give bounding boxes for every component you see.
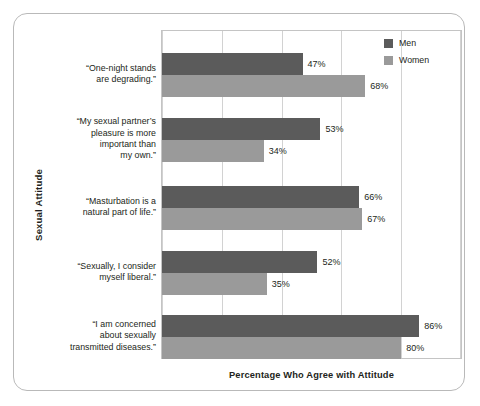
category-label-line: “My sexual partner’s (44, 116, 156, 127)
legend-label: Women (399, 55, 429, 65)
category-label-line: important than (44, 139, 156, 150)
bar-value-label: 66% (364, 186, 382, 208)
bar-value-label: 47% (308, 53, 326, 75)
category-label-line: natural part of life.” (44, 207, 156, 218)
category-label-line: myself liberal.” (44, 272, 156, 283)
category-label-3: “Masturbation is anatural part of life.” (44, 196, 156, 219)
category-label-1: “One-night standsare degrading.” (44, 63, 156, 86)
category-label-line: are degrading.” (44, 74, 156, 85)
bar-value-label: 68% (370, 75, 388, 97)
bar-value-label: 52% (322, 251, 340, 273)
legend-item-women[interactable]: Women (384, 53, 454, 67)
category-label-4: “Sexually, I considermyself liberal.” (44, 261, 156, 284)
plot-area: 47%68%53%34%66%67%52%35%86%80% (161, 30, 462, 359)
category-label-line: my own.” (44, 150, 156, 161)
category-label-line: “Masturbation is a (44, 196, 156, 207)
bar-men-5 (162, 315, 419, 337)
bar-men-3 (162, 186, 359, 208)
bar-men-4 (162, 251, 317, 273)
category-label-line: pleasure is more (44, 128, 156, 139)
legend-label: Men (399, 38, 416, 48)
legend: MenWomen (384, 36, 454, 70)
legend-swatch-icon (384, 39, 393, 48)
bar-value-label: 53% (325, 118, 343, 140)
figure-root: Sexual Attitude “One-night standsare deg… (0, 0, 480, 406)
x-axis-title: Percentage Who Agree with Attitude (161, 370, 462, 380)
bar-men-1 (162, 53, 303, 75)
bar-women-2 (162, 140, 264, 162)
category-label-line: “One-night stands (44, 63, 156, 74)
legend-swatch-icon (384, 56, 393, 65)
legend-item-men[interactable]: Men (384, 36, 454, 50)
bar-value-label: 34% (269, 140, 287, 162)
category-label-column: “One-night standsare degrading.”“My sexu… (44, 30, 156, 366)
bar-women-3 (162, 208, 362, 230)
bar-men-2 (162, 118, 320, 140)
bar-value-label: 67% (367, 208, 385, 230)
bar-women-5 (162, 337, 401, 359)
bar-women-4 (162, 273, 267, 295)
bar-value-label: 35% (272, 273, 290, 295)
bar-value-label: 80% (406, 337, 424, 359)
category-label-line: transmitted diseases.” (44, 342, 156, 353)
bar-value-label: 86% (424, 315, 442, 337)
bars-layer: 47%68%53%34%66%67%52%35%86%80% (162, 31, 461, 358)
category-label-line: about sexually (44, 330, 156, 341)
category-label-line: “I am concerned (44, 319, 156, 330)
category-label-5: “I am concernedabout sexuallytransmitted… (44, 319, 156, 353)
category-label-line: “Sexually, I consider (44, 261, 156, 272)
category-label-2: “My sexual partner’spleasure is moreimpo… (44, 116, 156, 162)
bar-women-1 (162, 75, 365, 97)
